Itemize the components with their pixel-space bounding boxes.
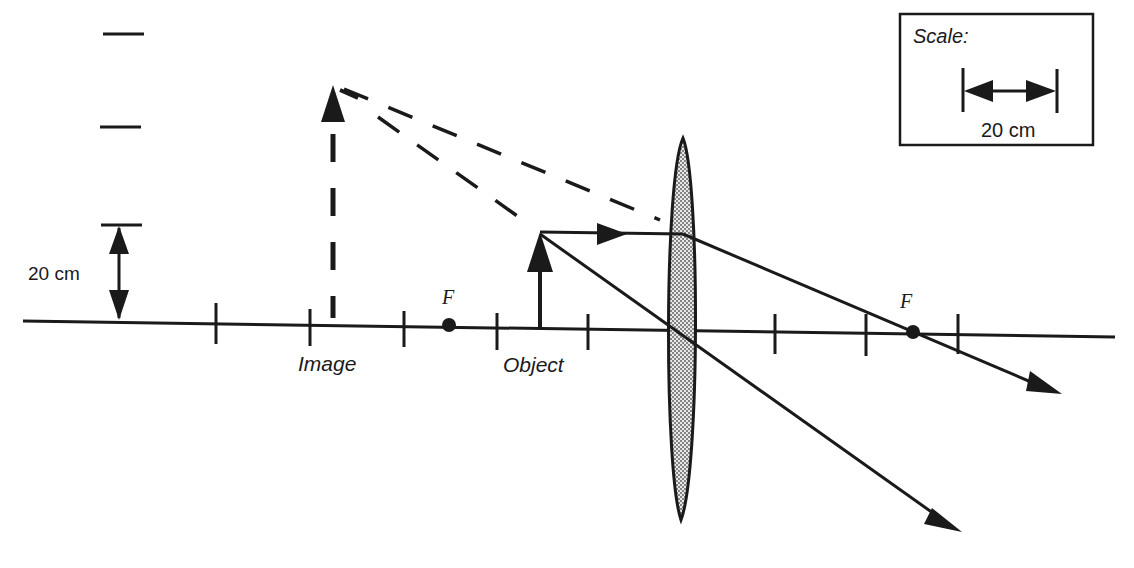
optical-axis: [23, 321, 1115, 337]
vertical-scale-label: 20 cm: [28, 263, 80, 284]
ray-central: [540, 234, 962, 532]
image-label: Image: [298, 352, 356, 375]
focal-label-right: F: [899, 290, 913, 312]
focal-point-left: [442, 318, 456, 332]
lens-ray-diagram: 20 cm F F Image Object: [0, 0, 1134, 568]
scale-title: Scale:: [913, 25, 969, 47]
ray-extensions: [344, 89, 660, 225]
axis-ticks: [216, 303, 958, 356]
object-label: Object: [503, 353, 565, 376]
image-arrow: [321, 85, 345, 318]
vertical-dimension-arrow: [109, 226, 129, 320]
scale-value: 20 cm: [981, 119, 1035, 141]
scale-box: Scale: 20 cm: [900, 14, 1093, 145]
ray-parallel: [540, 223, 1062, 394]
focal-label-left: F: [441, 286, 455, 308]
object-arrow: [527, 232, 553, 327]
vertical-scale-marks: [100, 34, 144, 225]
